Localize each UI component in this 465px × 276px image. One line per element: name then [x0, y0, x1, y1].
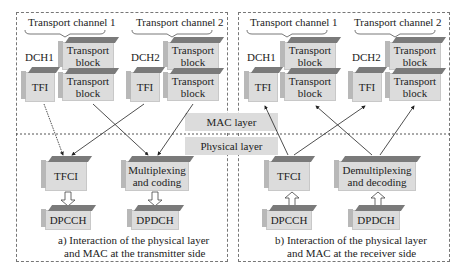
left-channel2-label: Transport channel 2: [136, 16, 224, 28]
right-tfci-box: TFCI: [268, 161, 310, 191]
left-tfi1-box: TFI: [25, 72, 55, 102]
right-tfi1-box: TFI: [248, 72, 278, 102]
left-tfi2-box: TFI: [130, 72, 160, 102]
left-tb1a-box: Transport block: [62, 42, 114, 70]
right-tb1a-box: Transport block: [284, 42, 336, 70]
right-caption-line1: b) Interaction of the physical layer: [275, 234, 427, 246]
right-dch1-label: DCH1: [247, 51, 276, 63]
right-channel2-label: Transport channel 2: [354, 16, 442, 28]
left-dpdch-box: DPDCH: [131, 210, 179, 230]
left-caption-line2: and MAC at the transmitter side: [64, 247, 205, 259]
right-tb2b-box: Transport block: [389, 73, 441, 101]
left-tb1b-box: Transport block: [62, 73, 114, 101]
right-dch2-label: DCH2: [352, 51, 381, 63]
right-dpdch-box: DPDCH: [352, 210, 400, 230]
left-tb2b-box: Transport block: [167, 73, 219, 101]
right-tb2a-box: Transport block: [389, 42, 441, 70]
left-channel1-label: Transport channel 1: [28, 16, 116, 28]
left-mux-box: Multiplexing and coding: [125, 161, 189, 191]
right-channel1-label: Transport channel 1: [250, 16, 338, 28]
left-dch1-label: DCH1: [25, 51, 54, 63]
right-demux-box: Demultiplexing and decoding: [338, 161, 416, 191]
left-tb2a-box: Transport block: [167, 42, 219, 70]
left-caption-line1: a) Interaction of the physical layer: [58, 234, 209, 246]
left-tfci-box: TFCI: [45, 161, 87, 191]
left-dpcch-box: DPCCH: [45, 210, 91, 230]
left-dch2-label: DCH2: [131, 51, 160, 63]
right-tb1b-box: Transport block: [284, 73, 336, 101]
right-tfi2-box: TFI: [352, 72, 382, 102]
right-caption-line2: and MAC at the receiver side: [287, 247, 416, 259]
right-dpcch-box: DPCCH: [266, 210, 312, 230]
